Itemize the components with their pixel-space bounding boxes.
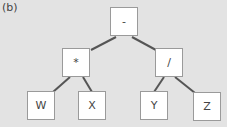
node-y: Y [140, 91, 168, 120]
node-root-minus: - [110, 7, 138, 36]
node-multiply: * [62, 48, 90, 77]
node-z: Z [193, 92, 221, 121]
node-divide: / [155, 48, 183, 77]
node-w: W [27, 91, 55, 120]
node-x: X [78, 91, 106, 120]
